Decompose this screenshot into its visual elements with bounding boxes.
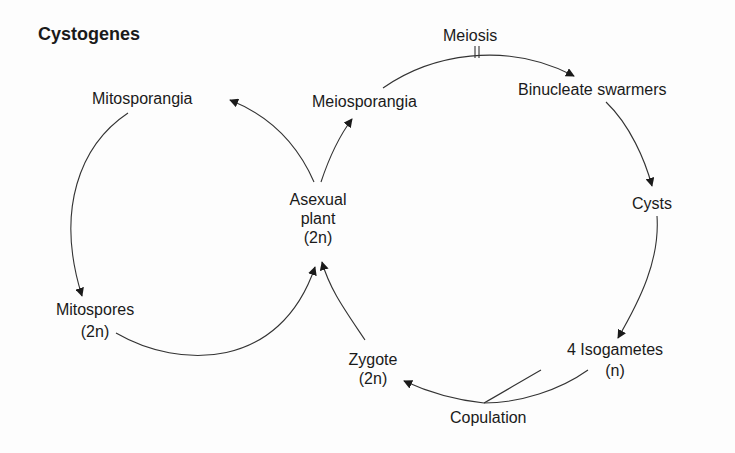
node-asexual-plant-line2: plant xyxy=(278,209,358,228)
node-mitospores-line1: Mitospores xyxy=(40,300,150,319)
node-isogametes-line1: 4 Isogametes xyxy=(555,340,675,359)
node-isogametes: 4 Isogametes (n) xyxy=(555,340,675,380)
edge-swarmers-to-cysts xyxy=(606,102,652,186)
edge-copulation-to-zygote xyxy=(404,381,484,403)
node-isogametes-line2: (n) xyxy=(555,361,675,380)
edge-plant-to-meiosporangia xyxy=(321,119,352,182)
diagram-title: Cystogenes xyxy=(38,24,140,45)
node-copulation: Copulation xyxy=(450,408,527,427)
edge-plant-to-mitosporangia xyxy=(230,100,314,182)
life-cycle-diagram: Cystogenes Mitosporangia Meiosporangia A… xyxy=(0,0,735,453)
edge-zygote-to-plant xyxy=(322,262,365,340)
node-asexual-plant-line1: Asexual xyxy=(278,190,358,209)
node-mitospores: Mitospores (2n) xyxy=(40,300,150,341)
node-cysts: Cysts xyxy=(632,194,672,213)
node-meiosporangia: Meiosporangia xyxy=(312,92,417,111)
node-zygote-line2: (2n) xyxy=(340,369,406,388)
edge-mitosporangia-to-mitospores xyxy=(71,113,128,296)
node-meiosis: Meiosis xyxy=(443,26,497,45)
node-asexual-plant: Asexual plant (2n) xyxy=(278,190,358,247)
node-asexual-plant-line3: (2n) xyxy=(278,228,358,247)
node-binucleate-swarmers: Binucleate swarmers xyxy=(518,80,667,99)
node-zygote-line1: Zygote xyxy=(340,350,406,369)
node-mitosporangia: Mitosporangia xyxy=(92,89,193,108)
node-zygote: Zygote (2n) xyxy=(340,350,406,388)
edge-isogametes-to-copulation-2 xyxy=(484,370,541,403)
edge-cysts-to-isogametes xyxy=(618,216,657,338)
node-mitospores-line2: (2n) xyxy=(40,322,150,341)
